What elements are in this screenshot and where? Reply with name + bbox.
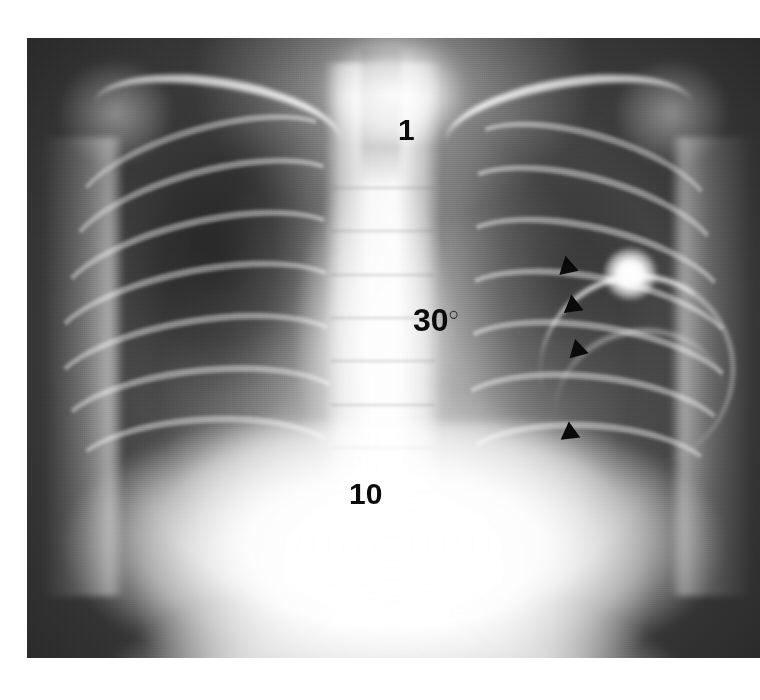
angle-value: 30: [413, 302, 449, 338]
first-rib-label: 1: [398, 115, 415, 145]
tenth-rib-label: 10: [349, 479, 382, 509]
angle-label: 30○: [413, 304, 459, 336]
abdomen-washout: [100, 559, 686, 658]
focal-opacity: [602, 246, 664, 308]
vertebra-line: [331, 187, 434, 189]
vertebra-line: [331, 274, 434, 276]
caption-sliver: [30, 688, 450, 700]
vertebra-line: [331, 230, 434, 232]
degree-symbol-icon: ○: [449, 304, 460, 324]
figure-root: 1 10 30○: [0, 0, 760, 700]
vertebra-line: [331, 404, 434, 406]
vertebra-line: [331, 360, 434, 362]
chest-radiograph-image: [27, 38, 760, 658]
